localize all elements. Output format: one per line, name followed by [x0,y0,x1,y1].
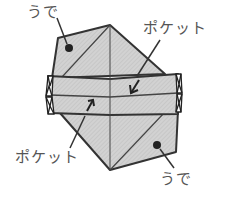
arm-dot-bottom [153,141,161,149]
label-arm-bottom: うで [160,172,192,187]
label-pocket-top: ポケット [143,21,207,36]
label-arm-top: うで [27,5,59,20]
label-pocket-bottom: ポケット [15,150,79,165]
right-pleat-edge [176,74,182,112]
arm-dot-top [65,44,73,52]
